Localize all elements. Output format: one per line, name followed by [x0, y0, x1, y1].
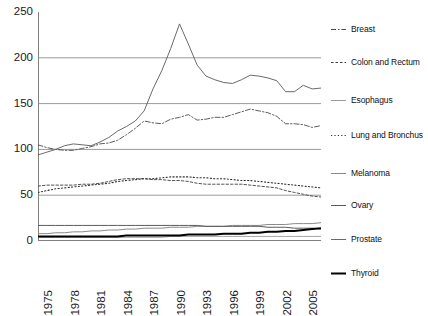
x-axis-tick-label: 1990	[176, 290, 187, 316]
legend-line-swatch	[331, 202, 346, 209]
x-axis-labels: 1975197819811984198719901993199619992002…	[38, 246, 328, 293]
legend-item-label: Esophagus	[351, 96, 393, 105]
y-axis-tick-label: 0	[27, 235, 33, 246]
y-axis-tick-label: 250	[14, 6, 33, 17]
x-axis-tick-label: 1981	[96, 290, 107, 316]
x-axis-tick-label: 1978	[70, 290, 81, 316]
legend-line-swatch	[331, 26, 346, 33]
x-axis-tick-label: 2002	[282, 290, 293, 316]
y-axis-tick-label: 200	[14, 52, 33, 63]
legend-item-ovary[interactable]: Ovary	[331, 198, 373, 212]
legend-line-swatch	[331, 59, 346, 66]
legend-item-label: Colon and Rectum	[351, 58, 420, 67]
x-axis-tick-label: 1993	[202, 290, 213, 316]
legend-item-label: Thyroid	[351, 269, 379, 278]
y-axis-tick-label: 50	[20, 189, 33, 200]
legend-item-label: Breast	[351, 25, 375, 34]
legend-item-label: Melanoma	[351, 169, 390, 178]
legend-line-swatch	[331, 170, 346, 177]
legend-line-swatch	[331, 97, 346, 104]
plot-area	[38, 12, 321, 241]
legend-item-label: Lung and Bronchus	[351, 131, 423, 140]
legend-item-lung-and-bronchus[interactable]: Lung and Bronchus	[331, 128, 423, 142]
chart-legend: BreastColon and RectumEsophagusLung and …	[331, 0, 428, 293]
y-axis-tick-label: 150	[14, 98, 33, 109]
x-axis-tick-label: 1984	[123, 290, 134, 316]
legend-line-swatch	[331, 270, 346, 277]
legend-item-breast[interactable]: Breast	[331, 22, 375, 36]
x-axis-tick-label: 2005	[308, 290, 319, 316]
legend-line-swatch	[331, 236, 346, 243]
x-axis-tick-label: 1996	[229, 290, 240, 316]
legend-item-melanoma[interactable]: Melanoma	[331, 166, 390, 180]
chart-svg	[38, 12, 321, 241]
x-axis-tick-label: 1999	[255, 290, 266, 316]
x-axis-tick-label: 1987	[149, 290, 160, 316]
legend-item-esophagus[interactable]: Esophagus	[331, 93, 393, 107]
legend-item-prostate[interactable]: Prostate	[331, 232, 382, 246]
x-axis-tick-label: 1975	[43, 290, 54, 316]
y-axis-labels: 050100150200250	[0, 0, 33, 293]
legend-item-label: Ovary	[351, 201, 373, 210]
legend-item-label: Prostate	[351, 235, 382, 244]
legend-line-swatch	[331, 132, 346, 139]
y-axis-tick-label: 100	[14, 143, 33, 154]
legend-item-colon-and-rectum[interactable]: Colon and Rectum	[331, 55, 420, 69]
series-line-prostate	[38, 24, 321, 155]
legend-item-thyroid[interactable]: Thyroid	[331, 266, 379, 280]
series-line-colon-and-rectum	[38, 179, 321, 197]
